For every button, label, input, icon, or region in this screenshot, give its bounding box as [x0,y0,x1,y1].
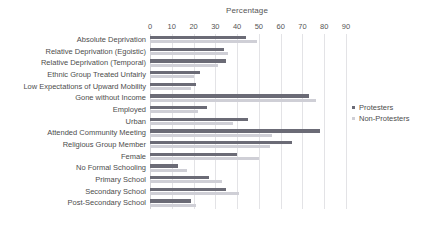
y-category-label: Absolute Deprivation [0,34,146,46]
y-category-label: Urban [0,116,146,128]
bar-protesters [150,164,178,167]
bar-rows [150,34,346,209]
x-tick-label: 60 [276,22,284,31]
bar-protesters [150,199,191,202]
bar-chart: Percentage 0102030405060708090 Absolute … [0,0,423,226]
y-category-label: Post-Secondary School [0,197,146,209]
legend-label: Protesters [359,103,393,112]
bar-non-protesters [150,192,239,195]
bar-protesters [150,176,209,179]
bar-non-protesters [150,64,218,67]
x-axis-tick-labels: 0102030405060708090 [0,22,423,33]
bar-protesters [150,118,248,121]
bar-row [150,92,346,104]
bar-non-protesters [150,122,233,125]
gridline [346,34,347,209]
bar-non-protesters [150,204,196,207]
bar-non-protesters [150,75,194,78]
y-category-label: Relative Deprivation (Egoistic) [0,46,146,58]
x-tick-label: 10 [168,22,176,31]
bar-protesters [150,153,237,156]
bar-non-protesters [150,180,222,183]
bar-non-protesters [150,87,191,90]
legend-swatch-icon [352,106,355,109]
y-category-label: Religious Group Member [0,139,146,151]
bar-row [150,116,346,128]
y-category-label: Relative Deprivation (Temporal) [0,57,146,69]
y-category-label: Gone without Income [0,92,146,104]
bar-non-protesters [150,157,259,160]
bar-row [150,57,346,69]
bar-row [150,34,346,46]
bar-protesters [150,188,226,191]
legend-item-protesters[interactable]: Protesters [352,102,422,112]
y-category-label: Female [0,151,146,163]
bar-protesters [150,141,292,144]
x-tick-label: 70 [298,22,306,31]
bar-non-protesters [150,99,316,102]
bar-protesters [150,106,207,109]
bar-protesters [150,71,200,74]
bar-row [150,197,346,209]
bar-row [150,151,346,163]
bar-non-protesters [150,52,228,55]
x-tick-label: 20 [189,22,197,31]
bar-protesters [150,59,226,62]
bar-row [150,186,346,198]
x-tick-label: 40 [233,22,241,31]
bar-protesters [150,36,246,39]
bar-non-protesters [150,134,272,137]
bar-row [150,174,346,186]
bar-row [150,69,346,81]
bar-protesters [150,129,320,132]
bar-row [150,162,346,174]
bar-row [150,81,346,93]
bar-protesters [150,83,196,86]
y-category-label: No Formal Schooling [0,162,146,174]
bar-non-protesters [150,169,187,172]
y-category-label: Secondary School [0,186,146,198]
x-tick-label: 90 [342,22,350,31]
bar-row [150,46,346,58]
x-tick-label: 80 [320,22,328,31]
bar-row [150,127,346,139]
legend-label: Non-Protesters [359,114,409,123]
x-tick-label: 50 [255,22,263,31]
y-category-label: Primary School [0,174,146,186]
legend-swatch-icon [352,117,355,120]
bar-non-protesters [150,40,257,43]
bar-non-protesters [150,145,270,148]
bar-row [150,104,346,116]
y-category-label: Attended Community Meeting [0,127,146,139]
y-category-label: Ethnic Group Treated Unfairly [0,69,146,81]
y-category-label: Employed [0,104,146,116]
bar-non-protesters [150,110,198,113]
x-tick-label: 30 [211,22,219,31]
y-axis-category-labels: Absolute DeprivationRelative Deprivation… [0,34,146,209]
x-tick-label: 0 [148,22,152,31]
legend-item-non-protesters[interactable]: Non-Protesters [352,113,422,123]
chart-legend: Protesters Non-Protesters [352,102,422,124]
plot-area [150,34,346,209]
chart-title: Percentage [148,6,346,15]
bar-protesters [150,94,309,97]
bar-row [150,139,346,151]
y-category-label: Low Expectations of Upward Mobility [0,81,146,93]
bar-protesters [150,48,224,51]
